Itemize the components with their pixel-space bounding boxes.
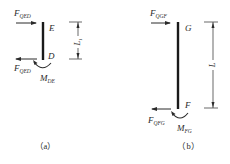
- node-g-label: G: [185, 23, 192, 33]
- moment-label-a: MDE: [39, 73, 55, 84]
- moment-arrowhead-a: [33, 60, 38, 65]
- caption-b: （b）: [177, 141, 199, 151]
- node-d-label: D: [47, 51, 55, 61]
- dimension-l: L: [204, 22, 218, 108]
- moment-label-b: MFG: [176, 123, 192, 134]
- panel-b: FQGF G F L FQFG MFG （: [147, 8, 218, 151]
- dimension-l1: L1: [69, 22, 83, 59]
- bottom-force-label-b: FQFG: [147, 115, 165, 126]
- node-f-label: F: [184, 100, 191, 110]
- caption-a: （a）: [35, 141, 57, 151]
- dimension-l-label: L: [207, 62, 217, 68]
- dimension-l1-label: L1: [72, 38, 83, 47]
- top-force-label-b: FQGF: [149, 8, 167, 19]
- top-force-label-a: FQED: [13, 8, 31, 19]
- node-e-label: E: [48, 23, 55, 33]
- panel-a: FQED E D L1 FQED MDE: [13, 8, 83, 151]
- bottom-force-label-a: FQED: [13, 63, 31, 74]
- free-body-diagrams: FQED E D L1 FQED MDE: [0, 0, 230, 164]
